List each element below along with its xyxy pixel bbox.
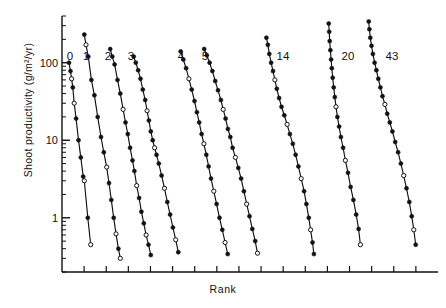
data-point-filled (168, 213, 172, 217)
series-label-3: 3 (128, 50, 134, 62)
data-point-filled (275, 87, 279, 91)
data-point-open (89, 243, 93, 247)
data-point-filled (128, 146, 132, 150)
data-point-filled (116, 78, 120, 82)
figure-container: Shoot productivity (g/m²/yr) Rank 100101… (0, 0, 446, 308)
data-point-open (202, 142, 206, 146)
data-point-filled (264, 36, 268, 40)
data-point-filled (266, 43, 270, 47)
data-point-filled (147, 243, 151, 247)
x-axis-label: Rank (0, 283, 446, 295)
data-point-filled (99, 135, 103, 139)
data-point-filled (124, 120, 128, 124)
data-point-filled (277, 96, 281, 100)
data-point-filled (349, 185, 353, 189)
data-point-filled (171, 226, 175, 230)
data-point-filled (213, 79, 217, 83)
data-point-filled (160, 174, 164, 178)
data-point-filled (210, 69, 214, 73)
data-point-filled (339, 135, 343, 139)
data-point-filled (147, 118, 151, 122)
data-point-filled (253, 239, 257, 243)
data-point-filled (327, 22, 331, 26)
data-point-filled (190, 88, 194, 92)
data-point-filled (218, 216, 222, 220)
data-point-filled (335, 115, 339, 119)
data-point-open (343, 158, 347, 162)
data-point-filled (239, 177, 243, 181)
data-point-filled (291, 142, 295, 146)
data-point-filled (296, 164, 300, 168)
data-point-filled (231, 146, 235, 150)
data-point-open (84, 43, 88, 47)
data-point-filled (71, 85, 75, 89)
data-point-filled (328, 48, 332, 52)
data-point-filled (242, 189, 246, 193)
data-point-open (144, 233, 148, 237)
x-axis-ticks (84, 266, 416, 272)
data-point-open (187, 77, 191, 81)
data-point-filled (82, 33, 86, 37)
data-point-filled (131, 158, 135, 162)
data-point-filled (132, 169, 136, 173)
data-point-open (70, 77, 74, 81)
data-point-open (285, 122, 289, 126)
data-point-filled (226, 252, 230, 256)
data-point-filled (176, 250, 180, 254)
data-point-filled (165, 200, 169, 204)
data-point-open (82, 179, 86, 183)
data-point-filled (77, 138, 81, 142)
data-point-open (383, 102, 387, 106)
data-point-filled (371, 52, 375, 56)
data-point-filled (149, 253, 153, 257)
data-point-filled (267, 52, 271, 56)
data-point-filled (207, 164, 211, 168)
data-point-filled (193, 99, 197, 103)
series-label-4: 4 (178, 50, 184, 62)
data-point-filled (136, 68, 140, 72)
data-point-filled (109, 198, 113, 202)
data-point-filled (141, 88, 145, 92)
data-point-filled (368, 36, 372, 40)
data-point-filled (410, 214, 414, 218)
data-point-open (223, 240, 227, 244)
data-point-filled (184, 66, 188, 70)
series-line (204, 49, 257, 253)
data-point-open (334, 105, 338, 109)
data-point-open (105, 165, 109, 169)
data-point-filled (197, 120, 201, 124)
data-point-filled (200, 132, 204, 136)
data-point-open (114, 232, 118, 236)
data-point-filled (332, 85, 336, 89)
data-point-filled (414, 243, 418, 247)
data-point-open (118, 256, 122, 260)
data-point-filled (224, 117, 228, 121)
series-label-1: 1 (83, 50, 89, 62)
data-point-filled (328, 39, 332, 43)
data-point-filled (143, 98, 147, 102)
data-point-filled (74, 117, 78, 121)
series-label-43: 43 (386, 50, 399, 62)
data-point-filled (367, 27, 371, 31)
data-point-filled (341, 146, 345, 150)
data-point-filled (327, 30, 331, 34)
data-series-group (67, 20, 418, 261)
data-point-open (212, 189, 216, 193)
data-point-filled (388, 120, 392, 124)
data-point-filled (116, 247, 120, 251)
data-point-open (174, 238, 178, 242)
data-point-filled (195, 110, 199, 114)
y-tick-label: 1 (20, 212, 58, 224)
data-point-filled (346, 171, 350, 175)
data-point-filled (370, 44, 374, 48)
data-point-filled (220, 228, 224, 232)
data-point-open (153, 146, 157, 150)
data-point-open (72, 101, 76, 105)
data-point-filled (118, 92, 122, 96)
data-point-filled (307, 216, 311, 220)
y-axis-label: Shoot productivity (g/m²/yr) (22, 30, 34, 190)
data-point-filled (330, 66, 334, 70)
data-point-filled (337, 125, 341, 129)
data-point-filled (329, 58, 333, 62)
data-point-filled (248, 214, 252, 218)
